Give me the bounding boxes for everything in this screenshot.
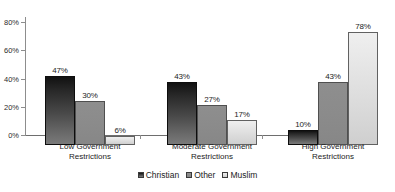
category-label-high-line1: High Government	[283, 142, 383, 152]
category-tick-2	[262, 135, 263, 139]
category-label-low-line1: Low Government	[40, 142, 140, 152]
bar-label-low-christian: 47%	[45, 66, 75, 75]
bar-label-moderate-other: 27%	[197, 95, 227, 104]
bar-label-low-muslim: 6%	[105, 126, 135, 135]
bar-moderate-christian[interactable]	[167, 82, 197, 145]
plot-area: 80% 60% 40% 20% 0% 47% 30% 6% 43% 27%	[0, 0, 395, 145]
category-label-moderate-line1: Moderate Government	[152, 142, 272, 152]
y-tick-80	[21, 22, 26, 23]
bar-chart: 80% 60% 40% 20% 0% 47% 30% 6% 43% 27%	[0, 0, 395, 192]
bar-group-high: 10% 43% 78%	[288, 27, 378, 145]
category-label-moderate-line2: Restrictions	[152, 152, 272, 162]
legend-item-christian[interactable]: Christian	[138, 170, 180, 180]
legend-label-christian: Christian	[146, 170, 180, 180]
legend-item-muslim[interactable]: Muslim	[222, 170, 257, 180]
bar-label-moderate-muslim: 17%	[227, 110, 257, 119]
legend-label-muslim: Muslim	[230, 170, 257, 180]
y-tick-40	[21, 79, 26, 80]
bar-label-low-other: 30%	[75, 91, 105, 100]
legend-swatch-christian-icon	[138, 172, 144, 178]
bar-group-low: 47% 30% 6%	[45, 27, 135, 145]
y-tick-label-80: 80%	[0, 18, 19, 27]
bar-group-moderate: 43% 27% 17%	[167, 27, 257, 145]
category-label-low: Low Government Restrictions	[40, 142, 140, 162]
y-axis-line	[25, 17, 26, 135]
bar-label-high-muslim: 78%	[348, 22, 378, 31]
legend-swatch-muslim-icon	[222, 172, 228, 178]
y-tick-20	[21, 107, 26, 108]
bar-label-high-christian: 10%	[288, 120, 318, 129]
bar-label-high-other: 43%	[318, 72, 348, 81]
y-tick-0	[21, 135, 26, 136]
y-tick-label-60: 60%	[0, 46, 19, 55]
y-tick-label-0: 0%	[0, 131, 19, 140]
category-label-low-line2: Restrictions	[40, 152, 140, 162]
chart-legend: Christian Other Muslim	[0, 170, 395, 180]
bar-low-other[interactable]	[75, 101, 105, 145]
y-tick-label-20: 20%	[0, 103, 19, 112]
legend-item-other[interactable]: Other	[186, 170, 215, 180]
y-tick-60	[21, 50, 26, 51]
y-tick-label-40: 40%	[0, 75, 19, 84]
bar-high-other[interactable]	[318, 82, 348, 145]
bar-low-christian[interactable]	[45, 76, 75, 145]
legend-swatch-other-icon	[186, 172, 192, 178]
category-label-high: High Government Restrictions	[283, 142, 383, 162]
category-tick-1	[140, 135, 141, 139]
legend-label-other: Other	[194, 170, 215, 180]
category-label-moderate: Moderate Government Restrictions	[152, 142, 272, 162]
bar-high-muslim[interactable]	[348, 32, 378, 145]
category-label-high-line2: Restrictions	[283, 152, 383, 162]
bar-moderate-other[interactable]	[197, 105, 227, 145]
bar-label-moderate-christian: 43%	[167, 72, 197, 81]
